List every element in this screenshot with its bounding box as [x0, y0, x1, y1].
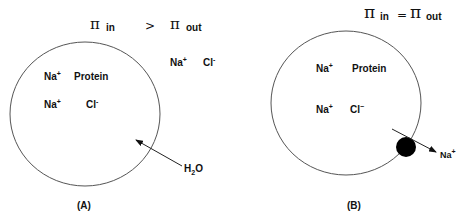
- efflux-sodium-label: Na+: [440, 149, 456, 161]
- inside-sodium-label-1: Na+: [44, 71, 61, 83]
- cell-membrane-a: [10, 42, 160, 186]
- pi-symbol-in: π: [364, 6, 375, 18]
- caption-a: (A): [77, 200, 91, 212]
- water-label: H2O: [184, 163, 203, 175]
- inside-sodium-label-1: Na+: [316, 63, 333, 75]
- pi-in-subscript: in: [380, 11, 389, 23]
- pi-symbol-out: π: [170, 18, 180, 30]
- inside-sodium-label-2: Na+: [44, 99, 61, 111]
- diagram-canvas: [0, 0, 461, 216]
- outside-chloride-label: Cl-: [203, 57, 215, 69]
- caption-b: (B): [347, 200, 361, 212]
- inside-chloride-label: Cl-: [86, 99, 98, 111]
- pi-symbol-in: π: [90, 18, 100, 30]
- inside-protein-label: Protein: [74, 71, 108, 83]
- relation-greater-than: >: [145, 20, 155, 32]
- relation-equals: =: [397, 9, 407, 21]
- inside-sodium-label-2: Na+: [316, 104, 333, 116]
- inside-protein-label: Protein: [352, 63, 386, 75]
- outside-sodium-label: Na+: [170, 57, 187, 69]
- inside-chloride-label: Cl−: [350, 104, 364, 116]
- pi-symbol-out: π: [410, 6, 421, 18]
- water-influx-arrow: [136, 140, 182, 166]
- pi-in-subscript: in: [106, 22, 115, 34]
- pi-out-subscript: out: [186, 22, 202, 34]
- pi-out-subscript: out: [426, 11, 442, 23]
